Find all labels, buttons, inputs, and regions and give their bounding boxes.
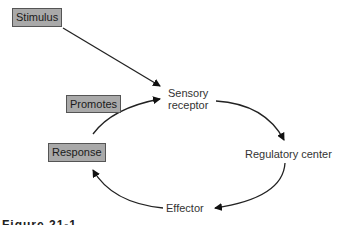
arrow-stimulus-to-receptor <box>63 28 160 86</box>
sensory-receptor-line2: receptor <box>168 99 208 111</box>
arrow-receptor-to-regulatory <box>216 101 284 140</box>
regulatory-center-label: Regulatory center <box>245 148 332 160</box>
stimulus-box: Stimulus <box>12 8 62 27</box>
arrows-layer <box>0 0 337 225</box>
arrow-effector-to-response <box>93 170 163 208</box>
figure-caption: Figure 21-1 <box>2 218 77 225</box>
effector-label: Effector <box>166 202 204 214</box>
sensory-receptor-line1: Sensory <box>168 87 208 99</box>
arrow-regulatory-to-effector <box>215 163 285 208</box>
sensory-receptor-label: Sensory receptor <box>168 87 208 111</box>
promotes-box: Promotes <box>66 95 121 113</box>
response-box: Response <box>48 143 106 162</box>
